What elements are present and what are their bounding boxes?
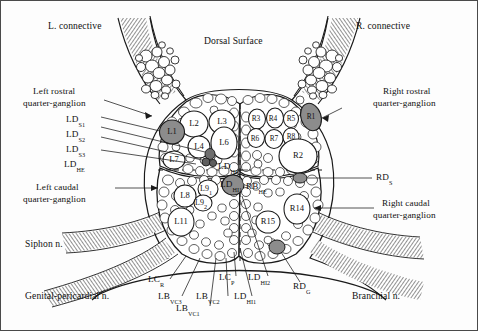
cell-R4 bbox=[267, 108, 284, 128]
label-ld-s1: LDS1 bbox=[66, 114, 85, 124]
right-rostral-quarter-ganglion-label-line1: Right rostral bbox=[383, 86, 431, 96]
cell-L8 bbox=[174, 185, 196, 207]
label-ld-he: LDHE bbox=[64, 159, 85, 169]
cell-R7 bbox=[265, 130, 283, 149]
label-lc-p: LCP bbox=[219, 272, 234, 282]
cell-R15 bbox=[256, 211, 280, 233]
cell-label-L9-1: L91 bbox=[200, 184, 212, 193]
label-lb-vc2: LBVC2 bbox=[196, 291, 220, 301]
cell-RD-S-shaded bbox=[293, 173, 307, 183]
cell-R6 bbox=[248, 129, 265, 148]
right-rostral-quarter-ganglion-label-line2: quarter-ganglion bbox=[373, 98, 436, 108]
label-lb-vc1: LBVC1 bbox=[176, 303, 200, 313]
branchial-nerve-label: Branchial n. bbox=[352, 290, 400, 301]
cell-L1-shaded bbox=[160, 120, 185, 144]
right-connective-label: R. connective bbox=[356, 20, 410, 31]
left-rostral-quarter-ganglion-label-line2: quarter-ganglion bbox=[23, 98, 86, 108]
right-caudal-quarter-ganglion-label-line2: quarter-ganglion bbox=[373, 210, 436, 220]
left-rostral-quarter-ganglion-label-line1: Left rostral bbox=[33, 86, 75, 96]
interior-label-ld-hi1: LDHI1 bbox=[220, 179, 242, 189]
label-lb-vc3: LBVC3 bbox=[158, 291, 182, 301]
label-ld-s2: LDS2 bbox=[66, 129, 85, 139]
label-rd-s: RDS bbox=[376, 172, 392, 182]
label-ld-hi2-bottom: LDHI2 bbox=[248, 272, 270, 282]
left-connective-label: L. connective bbox=[48, 20, 102, 31]
cell-R14 bbox=[284, 194, 310, 224]
dorsal-surface-title: Dorsal Surface bbox=[204, 35, 263, 46]
label-lc-r: LCR bbox=[148, 274, 164, 284]
cell-R3 bbox=[249, 109, 266, 129]
siphon-nerve-label: Siphon n. bbox=[25, 238, 63, 249]
left-caudal-quarter-ganglion-label-line1: Left caudal bbox=[36, 182, 79, 192]
cell-label-L9-2: L92 bbox=[195, 198, 207, 207]
interior-label-ld-hi2: LDHI2 bbox=[218, 161, 240, 171]
cell-L11 bbox=[168, 208, 194, 236]
left-caudal-quarter-ganglion-label-line2: quarter-ganglion bbox=[23, 194, 86, 204]
label-ld-hi1-bottom: LDHI1 bbox=[234, 291, 256, 301]
label-rd-g: RDG bbox=[293, 281, 310, 291]
genital-pericardial-nerve-label: Genital-pericardial n. bbox=[25, 290, 109, 301]
cell-R5 bbox=[284, 111, 299, 128]
right-caudal-quarter-ganglion-label-line1: Right caudal bbox=[382, 198, 430, 208]
label-ld-s3: LDS3 bbox=[66, 144, 85, 154]
cell-R2 bbox=[279, 139, 317, 173]
figure-canvas: L2 L3 L4 L6 L1 L7 L8 L11 R4 R3 R5 R6 R7 … bbox=[0, 0, 478, 331]
interior-label-rb-he: RBHE bbox=[246, 181, 267, 191]
cell-RD-G-shaded bbox=[269, 240, 285, 254]
